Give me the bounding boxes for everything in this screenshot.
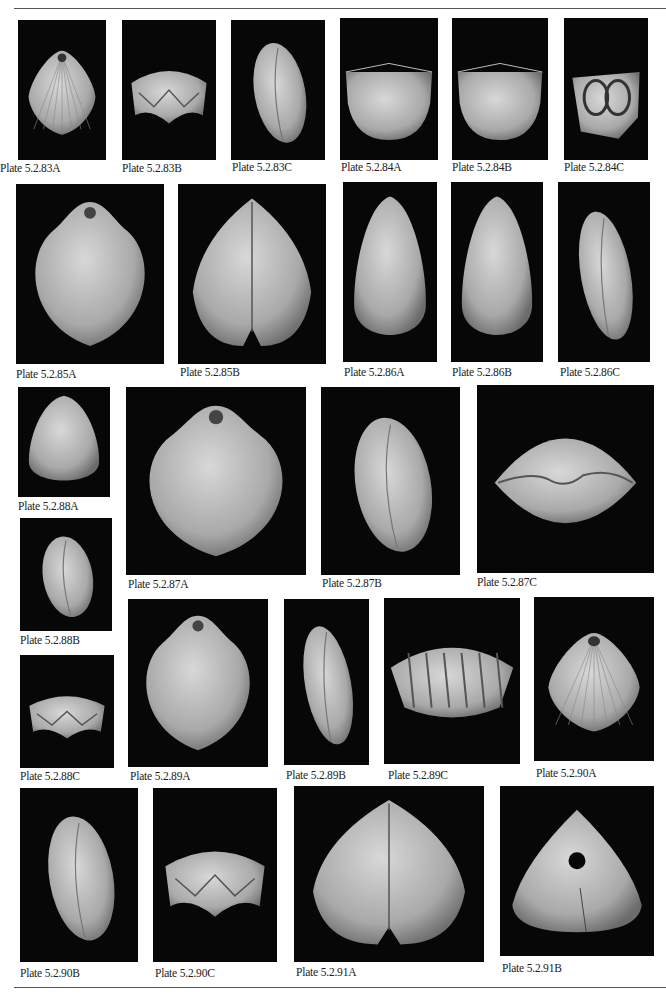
- plate-photo-89c: [384, 598, 520, 764]
- plate-caption: Plate 5.2.91A: [296, 966, 356, 978]
- fossil-shell-icon: [534, 597, 654, 761]
- plate-caption: Plate 5.2.91B: [502, 962, 562, 974]
- plate-caption: Plate 5.2.84B: [452, 161, 512, 173]
- plate-caption: Plate 5.2.86B: [452, 366, 512, 378]
- plate-caption: Plate 5.2.88B: [20, 634, 80, 646]
- plate-photo-89a: [128, 599, 268, 767]
- plate-caption: Plate 5.2.89A: [130, 770, 190, 782]
- plate-caption: Plate 5.2.85A: [16, 368, 76, 380]
- fossil-shell-icon: [20, 518, 112, 631]
- plate-photo-83c: [231, 20, 325, 160]
- plate-photo-84a: [340, 18, 438, 160]
- fossil-shell-icon: [231, 20, 325, 160]
- fossil-shell-icon: [452, 18, 548, 160]
- plate-caption: Plate 5.2.90C: [155, 967, 215, 979]
- plate-caption: Plate 5.2.84C: [564, 161, 624, 173]
- plate-photo-88b: [20, 518, 112, 631]
- fossil-shell-icon: [343, 182, 437, 362]
- fossil-shell-icon: [20, 788, 138, 962]
- plate-caption: Plate 5.2.86C: [560, 366, 620, 378]
- fossil-shell-icon: [18, 20, 106, 160]
- plate-photo-87c: [477, 385, 654, 573]
- plate-photo-90b: [20, 788, 138, 962]
- plate-photo-86b: [451, 182, 543, 362]
- fossil-shell-icon: [558, 182, 650, 362]
- footer-rule: [14, 987, 666, 988]
- plate-caption: Plate 5.2.90B: [20, 967, 80, 979]
- plate-caption: Plate 5.2.89C: [388, 769, 448, 781]
- plate-caption: Plate 5.2.88C: [20, 770, 80, 782]
- plate-photo-87a: [126, 387, 306, 575]
- fossil-shell-icon: [16, 184, 164, 364]
- fossil-shell-icon: [340, 18, 438, 160]
- fossil-shell-icon: [321, 387, 460, 575]
- plate-caption: Plate 5.2.85B: [180, 366, 240, 378]
- plate-photo-83b: [122, 20, 216, 160]
- fossil-shell-icon: [564, 18, 648, 160]
- plate-caption: Plate 5.2.89B: [286, 769, 346, 781]
- plate-caption: Plate 5.2.84A: [341, 161, 401, 173]
- plate-photo-90a: [534, 597, 654, 761]
- plate-photo-90c: [153, 788, 277, 962]
- fossil-shell-icon: [128, 599, 268, 767]
- fossil-shell-icon: [294, 786, 484, 962]
- fossil-shell-icon: [18, 387, 110, 497]
- plate-caption: Plate 5.2.87B: [322, 577, 382, 589]
- plate-photo-91a: [294, 786, 484, 962]
- plate-caption: Plate 5.2.83B: [122, 162, 182, 174]
- plate-photo-84c: [564, 18, 648, 160]
- fossil-shell-icon: [153, 788, 277, 962]
- plate-caption: Plate 5.2.87C: [477, 576, 537, 588]
- plate-photo-89b: [284, 599, 369, 765]
- plate-photo-83a: [18, 20, 106, 160]
- fossil-shell-icon: [122, 20, 216, 160]
- plate-photo-88a: [18, 387, 110, 497]
- fossil-shell-icon: [477, 385, 654, 573]
- fossil-shell-icon: [178, 184, 326, 364]
- plate-photo-91b: [500, 786, 654, 956]
- running-header: CLASS RHYNCHONELLATA 11: [504, 0, 652, 2]
- plate-photo-86c: [558, 182, 650, 362]
- plate-photo-86a: [343, 182, 437, 362]
- plate-caption: Plate 5.2.86A: [344, 366, 404, 378]
- plate-photo-87b: [321, 387, 460, 575]
- fossil-shell-icon: [20, 655, 114, 768]
- plate-photo-85a: [16, 184, 164, 364]
- plate-photo-84b: [452, 18, 548, 160]
- fossil-shell-icon: [500, 786, 654, 956]
- plate-caption: Plate 5.2.88A: [18, 500, 78, 512]
- fossil-shell-icon: [284, 599, 369, 765]
- plate-photo-85b: [178, 184, 326, 364]
- plate-photo-88c: [20, 655, 114, 768]
- header-rule: [14, 8, 666, 9]
- plate-caption: Plate 5.2.83C: [232, 161, 292, 173]
- fossil-shell-icon: [451, 182, 543, 362]
- fossil-shell-icon: [126, 387, 306, 575]
- plate-caption: Plate 5.2.90A: [536, 767, 596, 779]
- plate-caption: Plate 5.2.87A: [128, 578, 188, 590]
- fossil-shell-icon: [384, 598, 520, 764]
- plate-caption: Plate 5.2.83A: [0, 162, 60, 174]
